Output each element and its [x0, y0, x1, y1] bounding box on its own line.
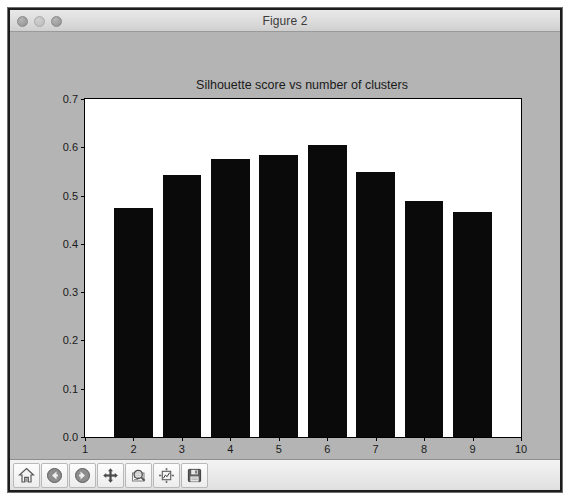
- zoom-magnifier-icon[interactable]: [125, 463, 152, 488]
- y-tick-label: 0.3: [63, 286, 78, 298]
- y-tick-mark: [81, 389, 85, 390]
- plot-axes[interactable]: 0.00.10.20.30.40.50.60.712345678910: [84, 98, 522, 438]
- x-tick-label: 2: [130, 443, 136, 455]
- figure-canvas[interactable]: Silhouette score vs number of clusters 0…: [10, 32, 560, 459]
- bar: [163, 175, 202, 437]
- x-tick-mark: [521, 437, 522, 441]
- y-tick-label: 0.5: [63, 190, 78, 202]
- home-icon[interactable]: [13, 463, 40, 488]
- navigation-toolbar[interactable]: [10, 459, 560, 490]
- bar: [211, 159, 250, 437]
- x-tick-label: 1: [82, 443, 88, 455]
- pan-icon[interactable]: [97, 463, 124, 488]
- bar: [405, 201, 444, 437]
- bar: [259, 155, 298, 437]
- y-tick-label: 0.1: [63, 383, 78, 395]
- x-tick-mark: [182, 437, 183, 441]
- y-tick-mark: [81, 196, 85, 197]
- save-floppy-icon[interactable]: [181, 463, 208, 488]
- x-tick-label: 8: [421, 443, 427, 455]
- x-tick-label: 10: [515, 443, 527, 455]
- bar: [453, 212, 492, 437]
- configure-subplots-icon[interactable]: [153, 463, 180, 488]
- y-tick-mark: [81, 99, 85, 100]
- window-controls: [17, 10, 62, 32]
- y-tick-label: 0.4: [63, 238, 78, 250]
- bar: [308, 145, 347, 437]
- y-tick-label: 0.6: [63, 141, 78, 153]
- y-tick-label: 0.0: [63, 431, 78, 443]
- x-tick-label: 4: [227, 443, 233, 455]
- y-tick-mark: [81, 244, 85, 245]
- x-tick-label: 5: [276, 443, 282, 455]
- x-tick-mark: [133, 437, 134, 441]
- x-tick-mark: [279, 437, 280, 441]
- window-titlebar[interactable]: Figure 2: [10, 10, 560, 32]
- y-tick-mark: [81, 147, 85, 148]
- x-tick-mark: [424, 437, 425, 441]
- x-tick-mark: [85, 437, 86, 441]
- window-title: Figure 2: [10, 14, 560, 28]
- minimize-button[interactable]: [34, 16, 45, 27]
- x-tick-mark: [376, 437, 377, 441]
- y-tick-mark: [81, 340, 85, 341]
- x-tick-mark: [230, 437, 231, 441]
- close-button[interactable]: [17, 16, 28, 27]
- x-tick-label: 6: [324, 443, 330, 455]
- x-tick-mark: [327, 437, 328, 441]
- figure-window: Figure 2 Silhouette score vs number of c…: [8, 8, 562, 492]
- x-tick-mark: [473, 437, 474, 441]
- x-tick-label: 3: [179, 443, 185, 455]
- bar: [114, 208, 153, 437]
- y-tick-label: 0.2: [63, 334, 78, 346]
- x-tick-label: 7: [373, 443, 379, 455]
- bar-series: [85, 99, 521, 437]
- forward-arrow-icon[interactable]: [69, 463, 96, 488]
- back-arrow-icon[interactable]: [41, 463, 68, 488]
- y-tick-label: 0.7: [63, 93, 78, 105]
- bar: [356, 172, 395, 437]
- x-tick-label: 9: [469, 443, 475, 455]
- chart-title: Silhouette score vs number of clusters: [84, 78, 520, 92]
- y-tick-mark: [81, 292, 85, 293]
- zoom-button[interactable]: [51, 16, 62, 27]
